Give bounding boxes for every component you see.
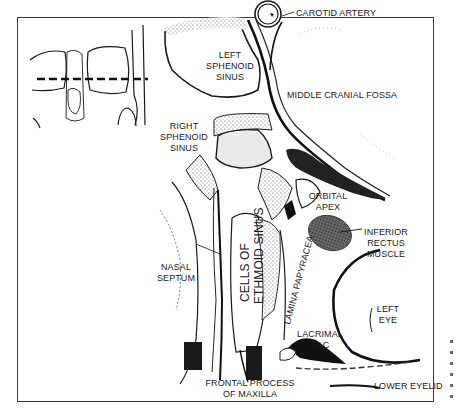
label-lower-eyelid: LOWER EYELID: [374, 381, 443, 392]
label-frontal-process-of-maxilla: FRONTAL PROCESS OF MAXILLA: [200, 378, 300, 400]
label-right-sphenoid-sinus: RIGHT SPHENOID SINUS: [160, 121, 208, 154]
label-lacrimal-sac: LACRIMAL SAC: [293, 329, 347, 351]
label-orbital-apex: ORBITAL APEX: [304, 191, 352, 213]
label-left-eye: LEFT EYE: [370, 304, 406, 326]
label-middle-cranial-fossa: MIDDLE CRANIAL FOSSA: [287, 90, 397, 101]
label-cells-of-ethmoid-sinus: CELLS OF ETHMOID SINUS: [238, 207, 266, 304]
skull-inset: [30, 25, 145, 128]
label-left-sphenoid-sinus: LEFT SPHENOID SINUS: [205, 50, 255, 83]
label-carotid-artery: CAROTID ARTERY: [296, 8, 376, 19]
label-inferior-rectus-muscle: INFERIOR RECTUS MUSCLE: [362, 227, 410, 260]
anatomy-figure: CAROTID ARTERY LEFT SPHENOID SINUS MIDDL…: [0, 0, 469, 416]
page-edge-marks: [450, 340, 456, 406]
carotid-artery-circle: [258, 4, 278, 24]
label-nasal-septum: NASAL SEPTUM: [152, 262, 200, 284]
